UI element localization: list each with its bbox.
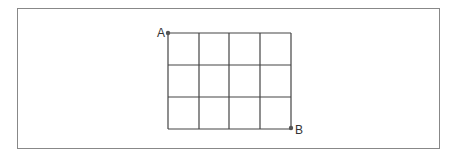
- point-a-label: A: [157, 27, 165, 39]
- point-b-label: B: [295, 124, 303, 136]
- grid-diagram: [0, 0, 459, 156]
- point-b-dot: [289, 126, 293, 130]
- point-a-dot: [166, 31, 170, 35]
